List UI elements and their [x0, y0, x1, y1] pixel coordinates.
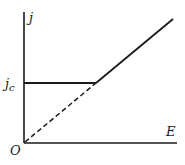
jc-main: j	[2, 76, 9, 91]
y-axis-label: j	[26, 10, 33, 25]
x-axis-label: E	[165, 124, 176, 139]
jc-tick-label: jc	[2, 76, 15, 93]
jc-subscript: c	[9, 82, 15, 93]
j-vs-e-diagram: j E O jc	[0, 0, 185, 165]
dashed-extrapolation-line	[25, 83, 96, 142]
origin-label: O	[10, 143, 21, 158]
rising-line	[96, 19, 173, 83]
